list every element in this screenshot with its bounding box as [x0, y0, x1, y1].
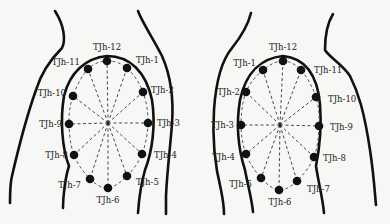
acupoint-label: TJh-2 [151, 85, 174, 95]
acupoint-marker [138, 150, 147, 159]
acupoint-marker [144, 119, 153, 128]
acupoint-marker [297, 66, 306, 75]
acupoint-label: TJh-9 [330, 122, 353, 132]
acupoint-label: TJh-7 [58, 180, 81, 190]
radial-dashed-line [280, 125, 319, 126]
right-knee-figure: TJh-12TJh-1TJh-2TJh-3TJh-4TJh-5TJh-6TJh-… [211, 42, 356, 207]
acupoint-marker [279, 57, 288, 66]
radial-dashed-line [69, 123, 108, 124]
acupoint-marker [242, 150, 251, 159]
knee-acupoint-diagram: TJh-12TJh-1TJh-2TJh-3TJh-4TJh-5TJh-6TJh-… [0, 0, 390, 224]
acupoint-label: TJh-10 [38, 88, 66, 98]
radial-dashed-line [108, 92, 143, 123]
acupoint-label: TJh-3 [157, 118, 180, 128]
acupoint-marker [123, 64, 132, 73]
acupoint-label: TJh-6 [269, 197, 292, 207]
acupoint-marker [84, 65, 93, 74]
center-point [279, 124, 282, 127]
acupoint-label: TJh-12 [93, 42, 121, 52]
acupoint-label: TJh-10 [328, 94, 356, 104]
acupoint-marker [86, 175, 95, 184]
acupoint-label: TJh-5 [229, 179, 252, 189]
radial-dashed-line [107, 61, 108, 123]
acupoint-label: TJh-6 [97, 195, 120, 205]
left-knee-figure: TJh-12TJh-1TJh-2TJh-3TJh-4TJh-5TJh-6TJh-… [38, 42, 180, 205]
acupoint-marker [123, 172, 132, 181]
acupoint-marker [310, 153, 319, 162]
acupoint-label: TJh-11 [314, 65, 342, 75]
acupoint-marker [139, 88, 148, 97]
acupoint-label: TJh-4 [154, 150, 177, 160]
acupoint-label: TJh-12 [269, 42, 297, 52]
radial-dashed-line [108, 123, 127, 176]
radial-dashed-line [280, 61, 283, 125]
acupoint-marker [237, 121, 246, 130]
acupoint-label: TJh-7 [307, 184, 330, 194]
acupoint-marker [69, 92, 78, 101]
radial-dashed-line [280, 97, 316, 125]
acupoint-marker [275, 186, 284, 195]
acupoint-label: TJh-2 [217, 87, 240, 97]
acupoint-label: TJh-5 [136, 177, 159, 187]
radial-dashed-line [279, 125, 280, 190]
radial-dashed-line [73, 96, 108, 123]
acupoint-marker [242, 88, 251, 97]
acupoint-marker [103, 57, 112, 66]
radial-dashed-line [246, 125, 280, 154]
acupoint-marker [293, 177, 302, 186]
acupoint-label: TJh-11 [52, 57, 80, 67]
acupoint-label: TJh-8 [323, 153, 346, 163]
acupoint-marker [257, 174, 266, 183]
acupoint-marker [70, 151, 79, 160]
radial-dashed-line [108, 123, 142, 154]
center-point [107, 122, 110, 125]
acupoint-label: TJh-3 [211, 120, 234, 130]
acupoint-label: TJh-1 [136, 55, 159, 65]
acupoint-label: TJh-9 [39, 119, 62, 129]
acupoint-label: TJh-1 [233, 58, 256, 68]
acupoint-marker [65, 120, 74, 129]
acupoint-label: TJh-4 [212, 152, 235, 162]
acupoint-marker [312, 93, 321, 102]
acupoint-marker [104, 184, 113, 193]
acupoint-marker [259, 66, 268, 75]
acupoint-label: TJh-8 [45, 150, 68, 160]
acupoint-marker [315, 122, 324, 131]
